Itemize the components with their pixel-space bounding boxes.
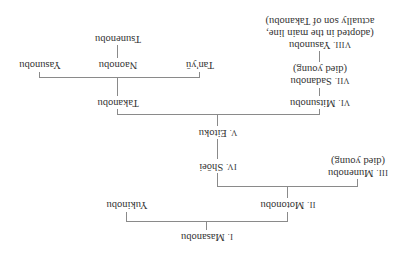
node-takanobu: Takanobu xyxy=(88,97,148,109)
node-yasunobu: Yasunobu xyxy=(10,59,70,71)
connector xyxy=(39,77,200,78)
connector xyxy=(126,221,288,222)
connector xyxy=(206,222,207,230)
name: Naonobu xyxy=(99,60,138,71)
connector xyxy=(117,45,118,58)
numeral: IV. xyxy=(226,162,237,172)
name: Yukinobu xyxy=(107,200,148,211)
connector xyxy=(126,212,127,222)
connector xyxy=(117,114,320,115)
name: Takanobu xyxy=(97,98,138,109)
name: Masanobu xyxy=(181,232,225,243)
numeral: II. xyxy=(307,200,316,210)
note: (died young) xyxy=(318,155,398,167)
numeral: I. xyxy=(227,232,233,242)
node-yasunobu-viii: VIII. Yasunobu (adopted in the main line… xyxy=(255,15,385,51)
name: Munenobu xyxy=(328,168,374,179)
connector xyxy=(357,179,358,187)
connector xyxy=(287,212,288,222)
note: (adopted in the main line, xyxy=(255,27,385,39)
node-eitoku: V. Eitoku xyxy=(188,127,248,139)
connector xyxy=(117,109,118,115)
node-mitsunobu: VI. Mitsunobu xyxy=(280,97,360,109)
name: Tan'yū xyxy=(186,60,214,71)
node-naonobu: Naonobu xyxy=(88,59,148,71)
numeral: VI. xyxy=(338,98,350,108)
node-yukinobu: Yukinobu xyxy=(97,199,157,211)
family-tree-diagram: I. Masanobu II. Motonobu Yukinobu III. M… xyxy=(0,0,410,263)
note: (died young) xyxy=(275,63,365,75)
connector xyxy=(117,78,118,96)
numeral: VIII. xyxy=(333,40,351,50)
numeral: III. xyxy=(376,168,388,178)
name: Motonobu xyxy=(260,200,304,211)
name: Mitsunobu xyxy=(290,98,336,109)
name: Sadanobu xyxy=(290,76,331,87)
connector xyxy=(217,173,218,187)
node-masanobu: I. Masanobu xyxy=(172,231,242,243)
name: Yasunobu xyxy=(19,60,61,71)
connector xyxy=(319,109,320,115)
numeral: VII. xyxy=(334,76,349,86)
name: Eitoku xyxy=(199,128,227,139)
node-tanyu: Tan'yū xyxy=(170,59,230,71)
numeral: V. xyxy=(229,128,237,138)
connector xyxy=(287,187,288,198)
connector xyxy=(319,88,320,96)
node-motonobu: II. Motonobu xyxy=(248,199,328,211)
node-sadanobu: VII. Sadanobu (died young) xyxy=(275,63,365,87)
node-tsunenobu: Tsunenobu xyxy=(83,33,153,45)
name: Tsunenobu xyxy=(95,34,141,45)
connector xyxy=(199,72,200,78)
connector xyxy=(217,115,218,126)
name: Shōei xyxy=(199,162,223,173)
connector xyxy=(217,139,218,159)
name: Yasunobu xyxy=(289,40,331,51)
node-munenobu: III. Munenobu (died young) xyxy=(318,155,398,179)
connector xyxy=(39,72,40,78)
connector xyxy=(217,186,358,187)
note: actually son of Takanobu) xyxy=(255,15,385,27)
node-shoei: IV. Shōei xyxy=(188,161,248,173)
connector xyxy=(319,51,320,62)
